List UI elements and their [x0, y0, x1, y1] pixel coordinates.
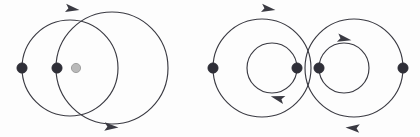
- arrow-top-right: [65, 4, 80, 14]
- orbit-diagram-figure: [0, 0, 420, 137]
- node-hollow-right: [71, 63, 80, 72]
- circle-inner-left: [247, 43, 297, 93]
- circle-left-large: [22, 20, 118, 116]
- arrow-outer-right-bottom-left: [345, 123, 360, 132]
- nodes-layer: [17, 63, 408, 73]
- diagram-canvas: [0, 0, 420, 137]
- arrow-outer-left-top-right: [261, 4, 276, 14]
- circle-inner-right: [319, 43, 369, 93]
- node-filled-left: [17, 63, 27, 73]
- arrow-inner-left-bottom-left: [270, 92, 286, 104]
- node-filled-far-right: [398, 63, 408, 73]
- node-filled-mid: [52, 63, 62, 73]
- node-filled-center-right: [314, 63, 324, 73]
- node-filled-far-left: [208, 63, 218, 73]
- node-filled-center-left: [292, 63, 302, 73]
